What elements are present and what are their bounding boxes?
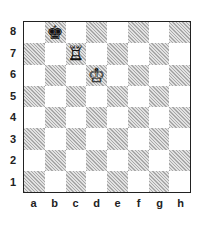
rank-label: 4 [8, 111, 18, 123]
square-a2 [24, 150, 45, 171]
square-e3 [107, 128, 128, 149]
square-b7 [45, 43, 66, 64]
rank-label: 5 [8, 90, 18, 102]
file-label: d [86, 197, 107, 209]
chess-board: ♚♖♔ [23, 21, 191, 193]
file-label: c [65, 197, 86, 209]
square-c8 [66, 22, 87, 43]
square-f7 [128, 43, 149, 64]
square-c7: ♖ [66, 43, 87, 64]
square-d4 [86, 107, 107, 128]
square-e7 [107, 43, 128, 64]
square-d2 [86, 150, 107, 171]
rank-label: 3 [8, 133, 18, 145]
black-king-icon: ♚ [47, 23, 64, 42]
square-d6: ♔ [86, 65, 107, 86]
square-a8 [24, 22, 45, 43]
square-a7 [24, 43, 45, 64]
square-c2 [66, 150, 87, 171]
rank-label: 7 [8, 47, 18, 59]
square-a4 [24, 107, 45, 128]
square-b5 [45, 86, 66, 107]
square-f1 [128, 171, 149, 192]
square-a1 [24, 171, 45, 192]
square-b3 [45, 128, 66, 149]
square-g1 [149, 171, 170, 192]
square-b2 [45, 150, 66, 171]
square-f6 [128, 65, 149, 86]
square-g5 [149, 86, 170, 107]
file-label: f [128, 197, 149, 209]
square-c5 [66, 86, 87, 107]
square-f4 [128, 107, 149, 128]
square-c4 [66, 107, 87, 128]
file-label: a [23, 197, 44, 209]
square-d5 [86, 86, 107, 107]
file-label: b [44, 197, 65, 209]
square-h6 [169, 65, 190, 86]
square-b6 [45, 65, 66, 86]
square-c6 [66, 65, 87, 86]
square-h8 [169, 22, 190, 43]
rank-label: 6 [8, 68, 18, 80]
square-g8 [149, 22, 170, 43]
rank-label: 2 [8, 154, 18, 166]
rank-label: 8 [8, 25, 18, 37]
square-c3 [66, 128, 87, 149]
square-f5 [128, 86, 149, 107]
square-e8 [107, 22, 128, 43]
file-label: e [107, 197, 128, 209]
file-label: h [170, 197, 191, 209]
square-c1 [66, 171, 87, 192]
square-h7 [169, 43, 190, 64]
square-d3 [86, 128, 107, 149]
square-d1 [86, 171, 107, 192]
square-a5 [24, 86, 45, 107]
white-king-icon: ♔ [88, 66, 105, 85]
square-f8 [128, 22, 149, 43]
square-e1 [107, 171, 128, 192]
white-rook-icon: ♖ [67, 44, 84, 63]
square-f3 [128, 128, 149, 149]
file-label: g [149, 197, 170, 209]
square-g7 [149, 43, 170, 64]
square-e4 [107, 107, 128, 128]
square-h2 [169, 150, 190, 171]
square-e2 [107, 150, 128, 171]
square-d8 [86, 22, 107, 43]
square-h3 [169, 128, 190, 149]
square-e5 [107, 86, 128, 107]
square-e6 [107, 65, 128, 86]
square-g3 [149, 128, 170, 149]
square-h1 [169, 171, 190, 192]
square-d7 [86, 43, 107, 64]
square-g2 [149, 150, 170, 171]
square-b4 [45, 107, 66, 128]
rank-label: 1 [8, 176, 18, 188]
square-b1 [45, 171, 66, 192]
square-a6 [24, 65, 45, 86]
square-b8: ♚ [45, 22, 66, 43]
square-a3 [24, 128, 45, 149]
square-h4 [169, 107, 190, 128]
square-h5 [169, 86, 190, 107]
square-g6 [149, 65, 170, 86]
square-f2 [128, 150, 149, 171]
square-g4 [149, 107, 170, 128]
